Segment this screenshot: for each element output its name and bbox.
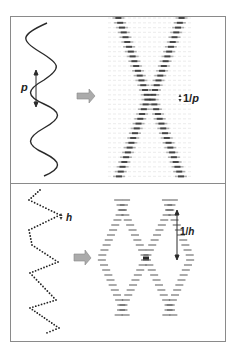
layer-line-label: 1/p	[183, 93, 199, 104]
pitch-label: p	[21, 82, 28, 93]
rise-label: h	[66, 213, 72, 223]
label-var: p	[192, 92, 199, 104]
transform-arrow-icon	[77, 89, 95, 103]
pitch-arrow-icon	[34, 70, 38, 107]
layer-spacing-label: 1/h	[180, 227, 194, 237]
transform-arrow-icon	[74, 250, 91, 265]
helix-sine-wave	[26, 23, 58, 176]
label-var: h	[188, 226, 194, 237]
diffraction-x-pattern	[108, 17, 191, 177]
figure-canvas	[0, 0, 239, 356]
label-prefix: 1/	[183, 92, 192, 104]
rise-arrow-icon	[60, 213, 63, 220]
diffraction-w-pattern	[98, 199, 194, 316]
dotted-helix	[28, 189, 61, 334]
